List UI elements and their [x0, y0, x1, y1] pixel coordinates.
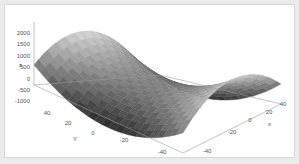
z-tick: 1000	[17, 53, 31, 59]
y-tick: -20	[120, 137, 129, 143]
z-axis-label: z	[19, 62, 22, 68]
y-tick: 20	[65, 120, 72, 126]
x-tick: -20	[228, 129, 237, 135]
y-tick: 0	[91, 130, 95, 136]
y-tick: 40	[44, 110, 51, 116]
x-tick: 0	[248, 117, 252, 123]
x-tick: 40	[280, 101, 287, 107]
x-axis-label: x	[268, 121, 271, 127]
z-tick: 2000	[17, 30, 31, 36]
surface-plot: 2000 1500 1000 500 0 -500 -1000 z 40 20 …	[0, 0, 299, 164]
z-tick: -1000	[15, 98, 31, 104]
y-axis-label: Y	[73, 136, 77, 142]
z-tick: 1500	[17, 41, 31, 47]
x-tick: -40	[203, 148, 212, 154]
z-tick: -500	[18, 87, 31, 93]
y-tick: -40	[158, 149, 167, 155]
z-tick: 0	[27, 76, 31, 82]
x-tick: 20	[266, 109, 273, 115]
